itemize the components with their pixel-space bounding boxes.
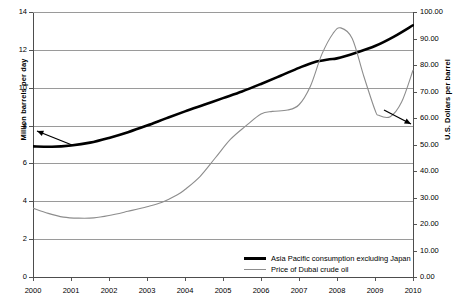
- series-line-asia-pacific-consumption: [33, 25, 413, 147]
- series-line-dubai-crude-price: [33, 28, 413, 219]
- left-axis-arrow: [37, 131, 72, 145]
- chart-container: Million barrels per day U.S. Dollars per…: [0, 0, 457, 303]
- series-layer: [0, 0, 457, 303]
